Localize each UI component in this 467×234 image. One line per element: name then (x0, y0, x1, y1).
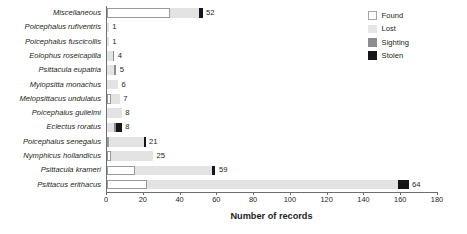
bar-segment-lost[interactable] (107, 65, 114, 75)
bar-segment-stolen[interactable] (398, 180, 409, 190)
bar-value-label: 1 (112, 35, 116, 49)
legend-item-found[interactable]: Found (368, 11, 409, 20)
bar-segment-lost[interactable] (107, 23, 109, 33)
stacked-bar[interactable] (107, 37, 109, 47)
category-label: Psittacus erithacus (0, 178, 101, 192)
chart-row: Poicephalus gulielmi8 (0, 106, 467, 120)
legend-label: Lost (382, 24, 396, 33)
chart-row: Psittacula eupatria5 (0, 63, 467, 77)
bar-segment-stolen[interactable] (212, 166, 216, 176)
category-label: Eolophus roseicapilla (0, 49, 101, 63)
bar-segment-lost[interactable] (170, 8, 199, 18)
category-label: Miscellaneous (0, 6, 101, 20)
chart-legend: FoundLostSightingStolen (368, 11, 409, 60)
chart-row: Eclectus roratus8 (0, 120, 467, 134)
category-label: Myiopsitta monachus (0, 78, 101, 92)
category-label: Poicephalus rufiventris (0, 20, 101, 34)
x-axis-title: Number of records (106, 211, 437, 221)
bar-segment-sighting[interactable] (114, 65, 116, 75)
bar-value-label: 21 (149, 135, 157, 149)
x-axis-tick-label: 160 (394, 195, 406, 204)
bar-value-label: 25 (156, 149, 164, 163)
x-axis-tick-label: 40 (175, 195, 183, 204)
bar-segment-lost[interactable] (135, 166, 212, 176)
legend-swatch-lost-icon (368, 25, 377, 34)
bar-segment-stolen[interactable] (116, 123, 122, 133)
bar-segment-lost[interactable] (107, 108, 122, 118)
stacked-bar[interactable] (107, 123, 122, 133)
bar-segment-sighting[interactable] (113, 51, 115, 61)
stacked-bar[interactable] (107, 180, 409, 190)
bar-segment-found[interactable] (107, 8, 170, 18)
stacked-bar-chart: Miscellaneous52Poicephalus rufiventris1P… (0, 0, 467, 234)
stacked-bar[interactable] (107, 51, 114, 61)
legend-swatch-sighting-icon (368, 38, 377, 47)
bar-segment-lost[interactable] (107, 80, 118, 90)
x-axis-tick-label: 120 (320, 195, 332, 204)
x-axis-line (106, 192, 438, 193)
category-label: Psittacula eupatria (0, 63, 101, 77)
bar-value-label: 8 (125, 120, 129, 134)
stacked-bar[interactable] (107, 166, 215, 176)
stacked-bar[interactable] (107, 94, 120, 104)
legend-swatch-found-icon (368, 11, 377, 20)
x-axis-tick-label: 0 (104, 195, 108, 204)
bar-segment-lost[interactable] (147, 180, 397, 190)
x-axis-tick-label: 100 (284, 195, 296, 204)
legend-label: Sighting (382, 38, 409, 47)
stacked-bar[interactable] (107, 108, 122, 118)
bar-segment-lost[interactable] (111, 94, 120, 104)
x-axis-tick-label: 60 (212, 195, 220, 204)
bar-segment-stolen[interactable] (144, 137, 146, 147)
legend-item-sighting[interactable]: Sighting (368, 38, 409, 47)
chart-row: Myiopsitta monachus6 (0, 78, 467, 92)
chart-row: Melopsittacus undulatus7 (0, 92, 467, 106)
legend-swatch-stolen-icon (368, 51, 377, 60)
chart-row: Poicephalus senegalus21 (0, 135, 467, 149)
bar-value-label: 6 (122, 78, 126, 92)
category-label: Poicephalus fuscicollis (0, 35, 101, 49)
bar-segment-lost[interactable] (109, 137, 144, 147)
bar-value-label: 8 (125, 106, 129, 120)
chart-row: Psittacus erithacus64 (0, 178, 467, 192)
bar-value-label: 64 (412, 178, 420, 192)
legend-item-lost[interactable]: Lost (368, 24, 409, 33)
bar-value-label: 5 (120, 63, 124, 77)
chart-row: Nymphicus hollandicus25 (0, 149, 467, 163)
x-axis-tick-label: 20 (139, 195, 147, 204)
category-label: Melopsittacus undulatus (0, 92, 101, 106)
legend-label: Found (382, 11, 404, 20)
x-axis-tick-label: 140 (357, 195, 369, 204)
stacked-bar[interactable] (107, 137, 146, 147)
bar-segment-lost[interactable] (107, 37, 109, 47)
category-label: Nymphicus hollandicus (0, 149, 101, 163)
bar-value-label: 1 (112, 20, 116, 34)
stacked-bar[interactable] (107, 65, 116, 75)
stacked-bar[interactable] (107, 23, 109, 33)
bar-segment-lost[interactable] (107, 123, 114, 133)
stacked-bar[interactable] (107, 151, 153, 161)
category-label: Poicephalus senegalus (0, 135, 101, 149)
bar-segment-found[interactable] (107, 166, 135, 176)
bar-value-label: 7 (123, 92, 127, 106)
bar-value-label: 52 (206, 6, 214, 20)
bar-segment-found[interactable] (107, 180, 147, 190)
category-label: Eclectus roratus (0, 120, 101, 134)
bar-value-label: 59 (219, 163, 227, 177)
category-label: Poicephalus gulielmi (0, 106, 101, 120)
legend-item-stolen[interactable]: Stolen (368, 51, 409, 60)
stacked-bar[interactable] (107, 80, 118, 90)
legend-label: Stolen (382, 51, 404, 60)
x-axis-tick-label: 180 (431, 195, 443, 204)
bar-segment-lost[interactable] (111, 151, 153, 161)
x-axis-tick-label: 80 (249, 195, 257, 204)
stacked-bar[interactable] (107, 8, 203, 18)
bar-segment-stolen[interactable] (199, 8, 203, 18)
bar-value-label: 4 (118, 49, 122, 63)
chart-row: Psittacula krameri59 (0, 163, 467, 177)
category-label: Psittacula krameri (0, 163, 101, 177)
